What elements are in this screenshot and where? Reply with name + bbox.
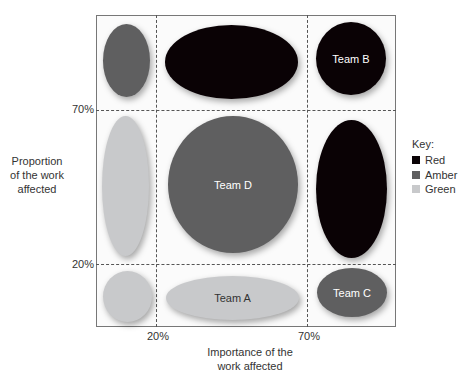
legend: Key: Red Amber Green <box>412 138 457 197</box>
team-d-label: Team D <box>214 179 252 191</box>
red-swatch-icon <box>412 156 420 164</box>
legend-label-amber: Amber <box>425 169 457 181</box>
gridline-y-20 <box>96 264 396 265</box>
y-tick-20: 20% <box>72 258 94 270</box>
bubble-team-a: Team A <box>166 276 299 320</box>
y-axis-label-line3: affected <box>0 182 74 196</box>
x-axis-label: Importance of the work affected <box>190 345 310 372</box>
legend-label-green: Green <box>425 183 456 195</box>
team-c-label: Team C <box>333 287 371 299</box>
legend-item-green: Green <box>412 182 457 197</box>
gridline-x-20 <box>156 15 157 327</box>
bubble-team-c: Team C <box>317 268 387 317</box>
y-tick-70: 70% <box>72 103 94 115</box>
green-swatch-icon <box>412 185 420 193</box>
legend-item-amber: Amber <box>412 168 457 183</box>
bubble-mid-high-red <box>316 120 387 258</box>
bubble-mid-low-green <box>102 116 149 256</box>
bubble-team-b: Team B <box>316 22 386 95</box>
bubble-high-low-amber <box>103 24 150 97</box>
x-tick-20: 20% <box>147 330 169 342</box>
bubble-high-mid-red <box>165 25 298 99</box>
y-axis-label-line1: Proportion <box>0 154 74 168</box>
legend-label-red: Red <box>425 154 445 166</box>
team-a-label: Team A <box>214 292 251 304</box>
team-b-label: Team B <box>332 53 369 65</box>
gridline-y-70 <box>96 110 396 111</box>
amber-swatch-icon <box>412 171 420 179</box>
x-tick-70: 70% <box>298 330 320 342</box>
x-axis-label-line1: Importance of the <box>190 345 310 359</box>
y-axis-label: Proportion of the work affected <box>0 154 74 196</box>
bubble-low-low-green <box>103 271 152 322</box>
bubble-team-d: Team D <box>168 116 298 253</box>
legend-title: Key: <box>412 138 457 150</box>
gridline-x-70 <box>307 15 308 327</box>
x-axis-label-line2: work affected <box>190 359 310 372</box>
legend-item-red: Red <box>412 153 457 168</box>
y-axis-label-line2: of the work <box>0 168 74 182</box>
